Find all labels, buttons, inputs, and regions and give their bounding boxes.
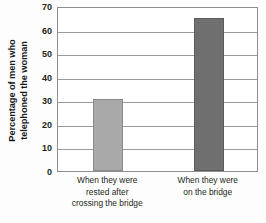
y-axis-tick-label: 50 <box>42 49 52 59</box>
x-axis-category-label-line: When they were <box>159 175 258 187</box>
y-axis-title-line-2: telephoned the woman <box>18 41 28 140</box>
x-axis-category-label: When they wereon the bridge <box>158 175 259 223</box>
y-axis-tick-label: 70 <box>42 2 52 12</box>
y-axis-tick-labels: 010203040506070 <box>34 7 55 172</box>
x-axis-category-label-line: on the bridge <box>159 187 258 199</box>
y-axis-title-line-1: Percentage of men who <box>7 39 17 141</box>
y-axis-tick-label: 0 <box>47 167 52 177</box>
plot-area <box>57 7 258 172</box>
x-axis-category-labels: When they wererested aftercrossing the b… <box>57 175 258 223</box>
x-axis-category-label-line: crossing the bridge <box>58 198 157 210</box>
y-axis-tick-label: 30 <box>42 96 52 106</box>
y-axis-tick-label: 40 <box>42 73 52 83</box>
y-axis-tick-label: 10 <box>42 143 52 153</box>
x-axis-category-label-line: rested after <box>58 187 157 199</box>
bar <box>93 99 123 171</box>
y-axis-tick-label: 20 <box>42 120 52 130</box>
x-axis-category-label: When they wererested aftercrossing the b… <box>57 175 158 223</box>
bar-chart: Percentage of men who telephoned the wom… <box>0 0 266 223</box>
y-axis-tick-label: 60 <box>42 26 52 36</box>
bars-layer <box>58 8 257 171</box>
y-axis-title: Percentage of men who telephoned the wom… <box>0 0 36 180</box>
x-axis-category-label-line: When they were <box>58 175 157 187</box>
bar <box>194 18 224 171</box>
